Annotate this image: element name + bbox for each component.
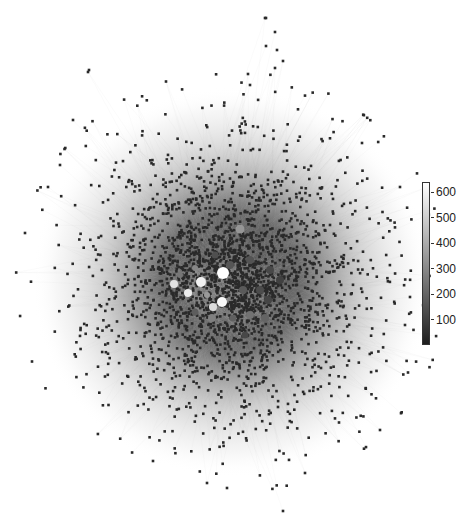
network-node [154, 334, 157, 337]
network-node [211, 163, 214, 166]
network-node [248, 298, 251, 301]
network-node [206, 482, 209, 485]
colorbar-tick: 100 [431, 314, 456, 326]
network-node [358, 430, 361, 433]
network-node [256, 240, 259, 243]
network-node [304, 228, 307, 231]
network-node [296, 246, 299, 249]
network-node [160, 314, 163, 317]
network-node [220, 377, 223, 380]
network-node [54, 330, 57, 333]
network-node [212, 159, 215, 162]
network-node [325, 361, 328, 364]
network-node [172, 367, 175, 370]
network-node [232, 284, 235, 287]
network-node [346, 226, 349, 229]
network-node [183, 232, 186, 235]
network-node [361, 180, 364, 183]
network-node [155, 282, 158, 285]
network-node [315, 222, 318, 225]
network-node [220, 253, 223, 256]
network-node [271, 290, 274, 293]
network-node [124, 285, 127, 288]
network-node [154, 174, 157, 177]
network-node [177, 298, 180, 301]
network-node [277, 319, 280, 322]
network-node [221, 188, 224, 191]
network-node [275, 337, 278, 340]
network-node [326, 246, 329, 249]
network-node [157, 236, 160, 239]
network-node [243, 267, 246, 270]
network-node [41, 209, 44, 212]
network-node [156, 193, 159, 196]
network-node [258, 414, 261, 417]
network-node [205, 341, 208, 344]
network-node [274, 296, 277, 299]
network-node [314, 311, 317, 314]
network-node [245, 439, 248, 442]
network-node [319, 187, 322, 190]
network-node [356, 182, 359, 185]
network-node [168, 405, 171, 408]
network-node [193, 246, 196, 249]
network-node [253, 367, 256, 370]
network-node [250, 185, 253, 188]
colorbar-tick: 500 [431, 212, 456, 224]
network-node [96, 327, 99, 330]
network-node [223, 370, 226, 373]
network-node [130, 180, 133, 183]
network-node [85, 129, 88, 132]
network-node [308, 324, 311, 327]
network-node [272, 250, 275, 253]
network-node [248, 329, 251, 332]
network-node [152, 198, 155, 201]
network-node [148, 436, 151, 439]
network-node [377, 222, 380, 225]
network-node [108, 357, 111, 360]
network-node [314, 371, 317, 374]
network-node [319, 242, 322, 245]
network-node [317, 365, 320, 368]
network-node [173, 447, 176, 450]
network-node [172, 390, 175, 393]
network-node [272, 284, 275, 287]
network-node [191, 191, 194, 194]
network-node [66, 273, 69, 276]
network-node [94, 309, 97, 312]
network-node [180, 183, 183, 186]
network-node [182, 388, 185, 391]
network-node [240, 353, 243, 356]
network-node [163, 369, 166, 372]
network-node [274, 67, 277, 70]
network-node [272, 384, 275, 387]
network-node [228, 356, 231, 359]
network-node [203, 340, 206, 343]
network-node [279, 229, 282, 232]
network-node [260, 274, 263, 277]
network-node [143, 249, 146, 252]
network-node [139, 375, 142, 378]
network-node [240, 238, 243, 241]
network-node [134, 291, 137, 294]
network-node [158, 259, 161, 262]
network-node [210, 197, 213, 200]
network-node [246, 233, 249, 236]
network-node [358, 361, 361, 364]
network-node [278, 308, 281, 311]
network-node [281, 301, 284, 304]
network-node [107, 363, 110, 366]
network-node [165, 212, 168, 215]
network-node [344, 172, 347, 175]
network-node [242, 306, 245, 309]
network-node [370, 334, 373, 337]
network-node [157, 132, 160, 135]
network-node [30, 280, 33, 283]
network-node [163, 315, 166, 318]
network-node [317, 313, 320, 316]
network-node [152, 251, 155, 254]
network-node [208, 201, 211, 204]
network-node [250, 217, 253, 220]
network-node [299, 223, 302, 226]
network-node [353, 316, 356, 319]
